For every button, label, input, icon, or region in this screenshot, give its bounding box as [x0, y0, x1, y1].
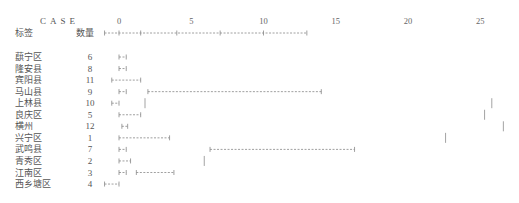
x-axis-line: [105, 31, 307, 36]
x-tick-label: 15: [332, 16, 341, 26]
x-tick-label: 0: [117, 16, 121, 26]
row-count: 5: [88, 110, 93, 120]
chart-title: CASE: [40, 16, 79, 26]
row-label: 隆安县: [15, 63, 42, 74]
row-label: 江南区: [15, 167, 42, 178]
row-count: 9: [88, 87, 93, 97]
row-label: 马山县: [15, 87, 42, 97]
row-label: 武鸣县: [15, 143, 42, 154]
row-label: 兴宁区: [15, 132, 42, 143]
row-count: 6: [88, 52, 93, 62]
row-count: 10: [86, 98, 96, 108]
row-label: 蕻宁区: [15, 51, 42, 62]
table-row: 宾阳县11: [15, 74, 141, 85]
table-row: 兴宁区1: [15, 132, 446, 143]
row-count: 7: [88, 144, 93, 154]
row-label: 宾阳县: [15, 74, 42, 85]
x-tick-label: 20: [404, 16, 413, 26]
chart-rows: 蕻宁区6隆安县8宾阳县11马山县9上林县10良庆区5横州12兴宁区1武鸣县7青秀…: [15, 51, 503, 189]
table-row: 横州12: [15, 120, 503, 131]
row-label: 西乡塘区: [15, 178, 51, 189]
row-count: 11: [86, 75, 95, 85]
x-tick-label: 5: [189, 16, 193, 26]
row-count: 2: [88, 156, 93, 166]
row-label: 青秀区: [15, 155, 42, 166]
case-chart: CASE 标签 数量 0510152025 蕻宁区6隆安县8宾阳县11马山县9上…: [0, 0, 519, 203]
x-tick-label: 25: [476, 16, 485, 26]
table-row: 马山县9: [15, 87, 321, 97]
row-label: 上林县: [15, 97, 42, 108]
row-count: 1: [88, 133, 93, 143]
row-label: 良庆区: [15, 109, 42, 120]
x-tick-label: 10: [259, 16, 268, 26]
row-count: 3: [88, 168, 93, 178]
label-column-header: 标签: [15, 27, 33, 38]
table-row: 上林县10: [15, 97, 492, 108]
table-row: 武鸣县7: [15, 143, 355, 154]
row-count: 8: [88, 64, 93, 74]
row-count: 12: [86, 121, 95, 131]
table-row: 蕻宁区6: [15, 51, 126, 62]
table-row: 西乡塘区4: [15, 178, 119, 189]
table-row: 良庆区5: [15, 109, 485, 120]
table-row: 江南区3: [15, 167, 174, 178]
row-count: 4: [88, 179, 93, 189]
x-axis-ticks: 0510152025: [117, 16, 485, 26]
table-row: 隆安县8: [15, 63, 126, 74]
table-row: 青秀区2: [15, 155, 204, 166]
row-label: 横州: [15, 120, 33, 131]
count-column-header: 数量: [76, 27, 94, 38]
